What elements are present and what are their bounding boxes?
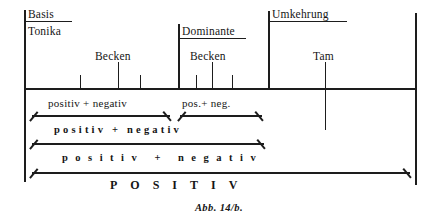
header-basis: Basis xyxy=(28,8,54,20)
band-4-segment-1-text: POSITIV xyxy=(110,178,250,193)
tick-2-becken-left xyxy=(118,62,119,88)
right-frame-rule xyxy=(415,13,417,185)
label-becken-right: Becken xyxy=(190,50,226,62)
label-becken-left: Becken xyxy=(95,50,131,62)
tick-5 xyxy=(196,75,197,88)
tick-7 xyxy=(232,75,233,88)
band-2-segment-1-text: positiv + negativ xyxy=(54,124,182,135)
band-3-segment-1-text: positiv + negativ xyxy=(62,152,263,163)
band-1-segment-1-text: positiv + negativ xyxy=(48,97,127,109)
header-umkehrung-underline xyxy=(270,21,347,22)
tick-1 xyxy=(80,75,81,88)
axis-baseline xyxy=(24,88,416,90)
tick-9-tam-rule xyxy=(325,62,326,130)
dominante-divider-rule xyxy=(178,24,180,88)
tick-3 xyxy=(140,75,141,88)
umkehrung-divider-rule xyxy=(268,11,270,88)
figure-abb-14b: Basis Tonika Dominante Umkehrung Becken … xyxy=(0,0,438,222)
left-frame-rule xyxy=(24,10,26,182)
header-umkehrung: Umkehrung xyxy=(272,8,329,20)
tick-6-becken-right xyxy=(212,62,213,88)
header-dominante: Dominante xyxy=(182,25,235,37)
header-tonika: Tonika xyxy=(28,25,61,37)
label-tam: Tam xyxy=(313,50,334,62)
header-basis-underline xyxy=(26,21,72,22)
figure-caption: Abb. 14/b. xyxy=(0,202,438,213)
band-1-segment-2-text: pos.+ neg. xyxy=(182,97,231,109)
header-dominante-underline xyxy=(180,38,246,39)
